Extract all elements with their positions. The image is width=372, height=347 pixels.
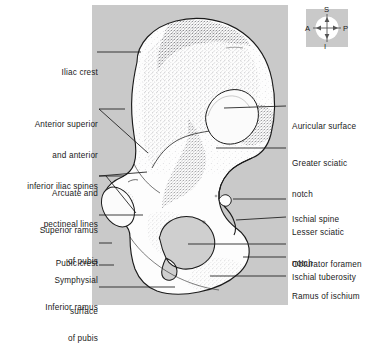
label-ramus-of-ischium: Ramus of ischium — [292, 271, 360, 323]
label-line: Lesser sciatic — [292, 228, 344, 238]
label-iliac-crest: Iliac crest — [18, 47, 98, 99]
label-line: Ramus of ischium — [292, 292, 360, 302]
label-line: Greater sciatic — [292, 159, 347, 169]
compass-label-inferior: I — [324, 42, 326, 52]
label-line: Iliac crest — [18, 68, 98, 78]
label-line: Anterior superior — [6, 120, 98, 130]
illustration-plate — [92, 5, 288, 305]
label-line: Arcuate and — [18, 189, 98, 199]
compass-label-posterior: P — [343, 24, 348, 34]
label-line: Superior ramus — [18, 226, 98, 236]
compass-label-superior: S — [324, 5, 329, 15]
label-line: and anterior — [6, 151, 98, 161]
label-line: Auricular surface — [292, 122, 356, 132]
label-inferior-ramus-of-pubis: Inferior ramus of pubis — [18, 282, 98, 347]
label-line: of pubis — [18, 334, 98, 344]
compass-label-anterior: A — [305, 24, 310, 34]
label-line: Inferior ramus — [18, 303, 98, 313]
